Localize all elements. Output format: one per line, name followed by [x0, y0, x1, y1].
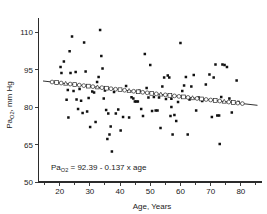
data-point	[119, 129, 122, 132]
y-tick-label: 110	[20, 28, 33, 37]
y-axis-title-subscript: O2	[9, 111, 15, 118]
data-point	[183, 84, 186, 87]
data-point	[115, 112, 118, 115]
data-point	[106, 138, 109, 141]
data-point	[101, 67, 104, 70]
data-point-group	[59, 29, 239, 153]
data-point	[214, 63, 217, 66]
fit-marker-circle	[186, 96, 190, 100]
data-point	[179, 42, 182, 45]
data-point	[177, 101, 180, 104]
data-point	[89, 126, 92, 129]
data-point	[59, 66, 62, 69]
data-point	[65, 99, 68, 102]
scatter-plot: 50658095110 20304050607080 PaO2, mm Hg A…	[0, 0, 267, 214]
data-point	[165, 98, 168, 101]
fit-marker-circle	[173, 94, 177, 98]
y-tick-label: 50	[24, 178, 33, 187]
fit-marker-circle	[204, 98, 208, 102]
y-axis-title-tail: , mm Hg	[5, 81, 14, 111]
data-point	[69, 72, 72, 75]
y-tick-label: 80	[24, 103, 33, 112]
fit-marker-square	[86, 84, 90, 88]
fit-marker-circle	[154, 92, 158, 96]
data-point	[140, 108, 143, 111]
data-point	[173, 114, 176, 117]
equation-body: = 92.39 - 0.137 x age	[68, 163, 147, 172]
data-point	[171, 133, 174, 136]
data-point	[63, 60, 66, 63]
data-point	[228, 97, 231, 100]
data-point	[186, 133, 189, 136]
data-point	[161, 85, 164, 88]
data-point	[109, 125, 112, 128]
data-point	[205, 83, 208, 86]
fit-marker-circle	[50, 80, 54, 84]
fit-marker-circle	[145, 91, 149, 95]
y-axis-title-main: Pa	[5, 118, 14, 128]
data-point	[153, 96, 156, 99]
figure-container: 50658095110 20304050607080 PaO2, mm Hg A…	[0, 0, 267, 214]
data-point	[185, 76, 188, 79]
data-point	[74, 71, 77, 74]
svg-text:PaO2 = 92.39 - 0.137 x age: PaO2 = 92.39 - 0.137 x age	[51, 163, 147, 173]
fit-marker-circle	[123, 88, 127, 92]
data-point	[208, 73, 211, 76]
data-point	[68, 50, 71, 53]
data-point	[107, 112, 110, 115]
data-point	[190, 85, 193, 88]
y-tick-label: 65	[24, 141, 33, 150]
data-point	[97, 76, 100, 79]
data-point	[149, 64, 152, 67]
data-point	[122, 116, 125, 119]
fit-marker-circle	[209, 98, 213, 102]
fit-marker-circle	[82, 84, 86, 88]
data-point	[78, 88, 81, 91]
fit-marker-circle	[218, 99, 222, 103]
data-point	[67, 116, 70, 119]
y-axis-tick-labels: 50658095110	[20, 28, 33, 187]
data-point	[128, 116, 131, 119]
fit-marker-circle	[177, 95, 181, 99]
fit-marker-square	[168, 93, 172, 97]
data-point	[211, 116, 214, 119]
fit-marker-square	[213, 99, 217, 103]
data-point	[218, 114, 221, 117]
data-point	[105, 109, 108, 112]
data-point	[67, 89, 70, 92]
x-tick-label: 60	[176, 187, 185, 196]
data-point	[94, 121, 97, 124]
data-point	[175, 120, 178, 123]
fit-marker-square	[105, 86, 109, 90]
data-point	[220, 96, 223, 99]
data-point	[108, 133, 111, 136]
fit-marker-square	[231, 101, 235, 105]
fit-marker-circle	[59, 81, 63, 85]
fit-marker-circle	[77, 83, 81, 87]
data-point	[168, 76, 171, 79]
data-point	[111, 150, 114, 153]
data-point	[156, 109, 159, 112]
data-point	[81, 112, 84, 115]
data-point	[72, 90, 75, 93]
data-point	[170, 98, 173, 101]
data-point	[99, 29, 102, 32]
fit-marker-circle	[236, 101, 240, 105]
fit-marker-circle	[227, 100, 231, 104]
fit-marker-circle	[68, 82, 72, 86]
x-tick-label: 50	[146, 187, 155, 196]
data-point	[84, 70, 87, 73]
fit-marker-circle	[109, 87, 113, 91]
data-point	[223, 64, 226, 67]
fit-marker-square	[73, 83, 77, 87]
data-point	[77, 108, 80, 111]
fit-marker-square	[136, 90, 140, 94]
data-point	[96, 81, 99, 84]
x-axis-title: Age, Years	[133, 202, 172, 211]
data-point	[75, 98, 78, 101]
regression-marker-group	[50, 80, 244, 105]
data-point	[142, 115, 145, 118]
fit-marker-circle	[195, 97, 199, 101]
data-point	[137, 100, 140, 103]
fit-marker-square	[118, 88, 122, 92]
